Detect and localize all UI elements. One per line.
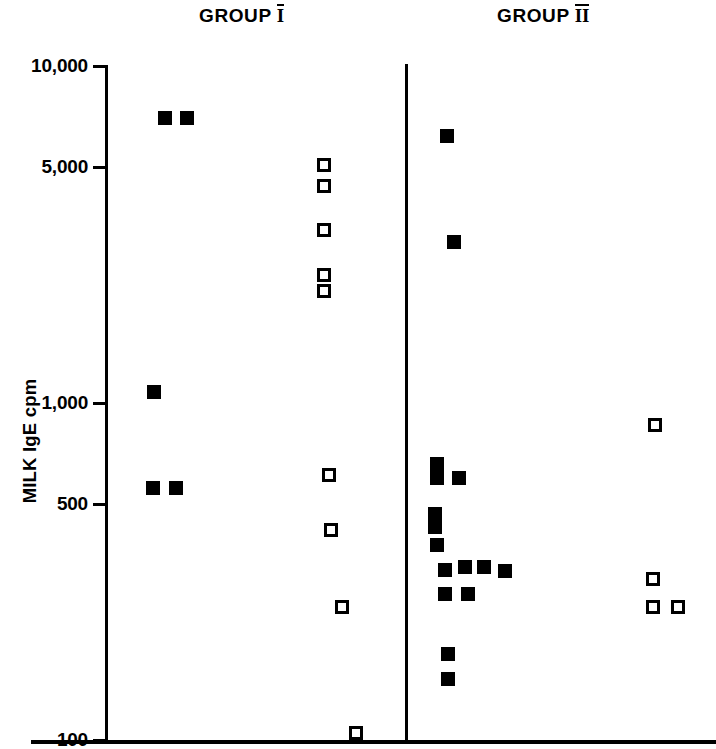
y-tick-100 — [93, 739, 106, 742]
group-1-label: GROUP — [199, 5, 272, 26]
y-tick-5000 — [93, 166, 106, 169]
group-2-label: GROUP — [497, 5, 570, 26]
data-point-open — [671, 600, 685, 614]
data-point-open — [317, 179, 331, 193]
data-point-filled — [477, 560, 491, 574]
group-2-numeral: II — [575, 4, 590, 25]
data-point-open — [335, 600, 349, 614]
data-point-filled — [438, 563, 452, 577]
data-point-filled — [447, 235, 461, 249]
data-point-filled — [169, 481, 183, 495]
data-point-open — [317, 158, 331, 172]
group-1-numeral: I — [277, 4, 284, 25]
data-point-filled — [441, 647, 455, 661]
data-point-open — [322, 468, 336, 482]
data-point-open — [317, 223, 331, 237]
data-point-open — [324, 523, 338, 537]
y-tick-label-1000: 1,000 — [2, 392, 88, 414]
group-1-header: GROUPI — [199, 4, 284, 27]
data-point-filled — [180, 111, 194, 125]
data-point-filled — [428, 507, 442, 521]
data-point-filled — [498, 564, 512, 578]
x-axis-line — [31, 740, 716, 744]
group-divider-line — [405, 64, 408, 741]
data-point-filled — [441, 672, 455, 686]
data-point-open — [317, 268, 331, 282]
data-point-filled — [461, 587, 475, 601]
data-point-filled — [440, 129, 454, 143]
y-tick-500 — [93, 503, 106, 506]
y-tick-label-5000: 5,000 — [2, 156, 88, 178]
data-point-open — [349, 726, 363, 740]
data-point-filled — [430, 457, 444, 471]
y-tick-10000 — [93, 65, 106, 68]
data-point-open — [646, 572, 660, 586]
data-point-open — [646, 600, 660, 614]
y-tick-label-500: 500 — [2, 493, 88, 515]
data-point-filled — [158, 111, 172, 125]
group-2-header: GROUPII — [497, 4, 589, 27]
y-tick-label-10000: 10,000 — [2, 55, 88, 77]
data-point-filled — [147, 385, 161, 399]
scatter-plot-figure: GROUPI GROUPII MILK IgE cpm 10,0005,0001… — [0, 0, 716, 749]
data-point-filled — [430, 471, 444, 485]
data-point-filled — [428, 520, 442, 534]
data-point-open — [317, 284, 331, 298]
data-point-open — [648, 418, 662, 432]
data-point-filled — [458, 560, 472, 574]
data-point-filled — [452, 471, 466, 485]
data-point-filled — [146, 481, 160, 495]
data-point-filled — [438, 587, 452, 601]
data-point-filled — [430, 538, 444, 552]
y-tick-1000 — [93, 402, 106, 405]
y-tick-label-100: 100 — [2, 729, 88, 749]
